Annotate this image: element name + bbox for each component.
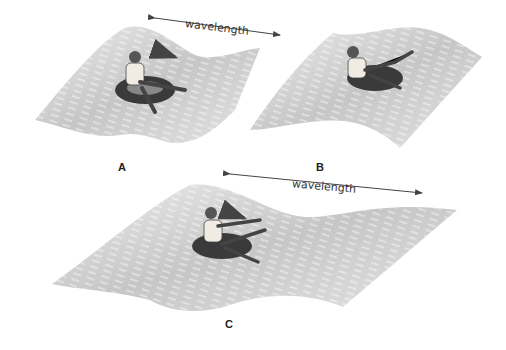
panel-label-c: C	[225, 318, 233, 330]
panel-c-wave	[52, 185, 457, 312]
panel-label-a: A	[118, 161, 126, 173]
wave-diagram	[0, 0, 506, 350]
panel-label-b: B	[316, 161, 324, 173]
